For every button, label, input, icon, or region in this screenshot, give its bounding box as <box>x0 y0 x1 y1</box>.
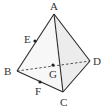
label-f: F <box>35 85 41 97</box>
label-d: D <box>93 55 101 67</box>
label-a: A <box>50 0 58 12</box>
tetrahedron-diagram: A B C D E F G <box>0 0 106 109</box>
point-e <box>33 39 36 42</box>
label-c: C <box>60 96 67 108</box>
label-g: G <box>49 68 57 80</box>
point-f <box>38 80 41 83</box>
point-g <box>51 63 54 66</box>
label-b: B <box>4 65 11 77</box>
label-e: E <box>24 33 31 45</box>
